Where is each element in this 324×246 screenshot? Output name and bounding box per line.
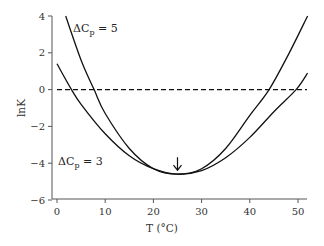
y-tick-label: 0 bbox=[39, 84, 45, 95]
plot-area bbox=[57, 16, 308, 174]
x-tick-label: 20 bbox=[147, 206, 160, 217]
y-tick-label: −2 bbox=[30, 121, 45, 132]
chart: 420−2−4−601020304050 T (°C)lnKΔCp = 5ΔCp… bbox=[0, 0, 324, 246]
label-dcp-5: ΔCp = 5 bbox=[73, 22, 118, 37]
y-axis-title: lnK bbox=[15, 99, 27, 117]
x-tick-label: 0 bbox=[54, 206, 60, 217]
x-tick-label: 50 bbox=[292, 206, 305, 217]
y-tick-label: 4 bbox=[39, 11, 45, 22]
arrow-down-icon bbox=[174, 157, 182, 170]
y-tick-label: 2 bbox=[39, 47, 45, 58]
curve-dcp-5 bbox=[66, 16, 308, 174]
x-axis-title: T (°C) bbox=[146, 222, 178, 234]
y-tick-label: −6 bbox=[30, 195, 45, 206]
x-tick-label: 40 bbox=[243, 206, 256, 217]
x-tick-label: 10 bbox=[99, 206, 112, 217]
axes: 420−2−4−601020304050 bbox=[30, 11, 307, 218]
x-tick-label: 30 bbox=[195, 206, 208, 217]
label-dcp-3: ΔCp = 3 bbox=[58, 155, 103, 170]
y-tick-label: −4 bbox=[30, 158, 45, 169]
